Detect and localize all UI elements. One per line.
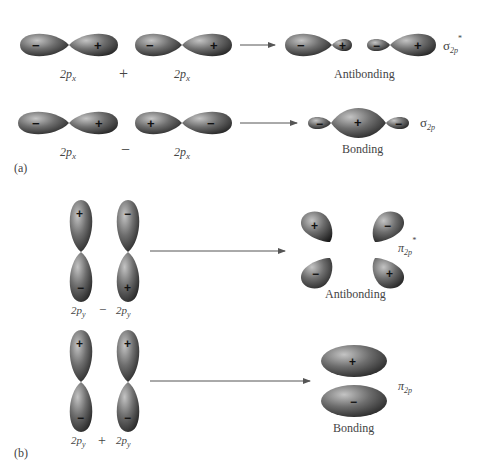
operator-minus: − xyxy=(99,302,106,317)
pi-antibonding-row: + − − + 2py − 2py + − − + Antibonding π2… xyxy=(70,200,416,319)
phase-sign: + xyxy=(124,281,131,295)
sigma-star-mo: − + − + xyxy=(285,34,436,57)
orbital-lobe xyxy=(390,34,436,57)
py-orbital-1: + − xyxy=(70,200,93,302)
orbital-label: 2py xyxy=(71,434,86,449)
orbital-label: 2px xyxy=(60,67,76,83)
mo-type-label: Antibonding xyxy=(334,67,395,81)
sigma-mo: − + − xyxy=(308,108,409,138)
phase-sign: + xyxy=(414,38,422,53)
phase-sign: + xyxy=(386,267,393,281)
mo-type-label: Bonding xyxy=(333,421,374,435)
phase-sign: − xyxy=(77,411,84,425)
mo-symbol: σ2p* xyxy=(443,34,462,55)
phase-sign: + xyxy=(76,207,83,221)
pi-mo: + − xyxy=(321,345,387,417)
phase-sign: + xyxy=(95,116,103,131)
mo-symbol: π2p xyxy=(398,379,412,395)
phase-sign: + xyxy=(311,219,318,233)
phase-sign: − xyxy=(297,38,305,53)
py-orbital-1: + − xyxy=(70,330,93,432)
py-orbital-2: + − xyxy=(117,330,140,432)
px-orbital-2: − + xyxy=(135,34,232,57)
orbital-label: 2px xyxy=(174,67,190,83)
orbital-label: 2py xyxy=(116,304,131,319)
phase-sign: − xyxy=(124,411,131,425)
sigma-bonding-row: − + 2px − + − 2px − + − Bonding σ2p xyxy=(18,108,435,161)
px-orbital-1: − + xyxy=(20,34,118,57)
orbital-label: 2py xyxy=(116,434,131,449)
orbital-label: 2py xyxy=(71,304,86,319)
orbital-label: 2px xyxy=(174,145,190,161)
operator-minus: − xyxy=(121,141,130,158)
phase-sign: − xyxy=(32,38,40,53)
phase-sign: + xyxy=(76,337,83,351)
phase-sign: − xyxy=(395,117,402,131)
phase-sign: + xyxy=(94,38,102,53)
molecular-orbital-diagram: − + 2px + − + 2px − + − + Antibonding σ2… xyxy=(0,0,480,460)
mo-symbol: σ2p xyxy=(420,115,435,132)
sigma-antibonding-row: − + 2px + − + 2px − + − + Antibonding σ2… xyxy=(20,34,462,83)
mo-type-label: Bonding xyxy=(342,142,383,156)
phase-sign: − xyxy=(373,39,380,53)
phase-sign: − xyxy=(316,117,323,131)
phase-sign: + xyxy=(210,38,218,53)
phase-sign: + xyxy=(339,39,346,53)
phase-sign: − xyxy=(350,395,357,409)
px-orbital-1: − + xyxy=(18,112,118,135)
orbital-lobe xyxy=(135,34,182,57)
panel-label-a: (a) xyxy=(14,161,27,175)
phase-sign: − xyxy=(77,281,84,295)
mo-type-label: Antibonding xyxy=(325,287,386,301)
phase-sign: − xyxy=(124,207,131,221)
phase-sign: + xyxy=(124,337,131,351)
orbital-lobe xyxy=(20,34,69,57)
phase-sign: + xyxy=(354,115,362,130)
orbital-label: 2px xyxy=(60,145,76,161)
orbital-lobe xyxy=(135,112,182,135)
phase-sign: − xyxy=(384,219,391,233)
mo-symbol: π2p* xyxy=(398,236,416,257)
orbital-lobe xyxy=(18,112,69,135)
orbital-lobe xyxy=(182,34,232,57)
pi-bonding-row: + − + − 2py + 2py + − Bonding π2p xyxy=(70,330,412,449)
panel-label-b: (b) xyxy=(14,446,28,460)
phase-sign: − xyxy=(312,267,319,281)
operator-plus: + xyxy=(119,65,128,82)
phase-sign: − xyxy=(146,38,154,53)
py-orbital-2: − + xyxy=(117,200,140,302)
orbital-lobe xyxy=(285,34,332,57)
phase-sign: − xyxy=(207,116,215,131)
phase-sign: + xyxy=(147,116,155,131)
phase-sign: − xyxy=(32,116,40,131)
pi-star-mo: + − − + xyxy=(301,211,404,288)
orbital-lobe xyxy=(69,112,118,135)
operator-plus: + xyxy=(98,433,106,448)
px-orbital-2: + − xyxy=(135,112,232,135)
phase-sign: + xyxy=(349,355,356,369)
